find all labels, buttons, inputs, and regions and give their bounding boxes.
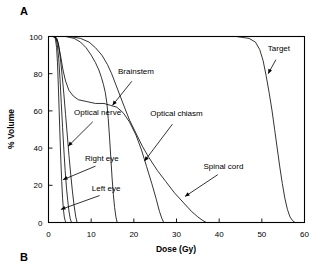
x-tick-label: 10: [87, 230, 96, 239]
x-axis-tick-labels: 0102030405060: [46, 230, 309, 239]
annotation-left-eye: Left eye: [92, 184, 121, 193]
x-tick-label: 30: [172, 230, 181, 239]
y-axis-title: % Volume: [6, 109, 16, 149]
y-axis-ticks: [49, 37, 53, 223]
x-tick-label: 40: [215, 230, 224, 239]
annotation-right-eye: Right eye: [85, 154, 119, 163]
figure-panel-a: A B 020406080100 0102030405060 TargetBra…: [0, 0, 323, 270]
y-tick-label: 100: [29, 33, 43, 42]
y-tick-label: 20: [34, 181, 43, 190]
series-curve-optical-chiasm: [49, 37, 164, 223]
y-axis-tick-labels: 020406080100: [29, 33, 43, 228]
y-tick-label: 40: [34, 144, 43, 153]
annotation-labels: TargetBrainstemOptical chiasmOptical ner…: [74, 44, 291, 193]
x-axis-title: Dose (Gy): [156, 244, 196, 254]
x-tick-label: 60: [300, 230, 309, 239]
leader-line: [63, 166, 96, 180]
leader-line: [185, 175, 218, 197]
leader-line: [61, 196, 100, 210]
annotation-optical-nerve: Optical nerve: [74, 108, 122, 117]
leader-line: [145, 124, 173, 161]
annotation-spinal-cord: Spinal cord: [203, 162, 243, 171]
annotation-brainstem: Brainstem: [118, 67, 154, 76]
annotation-target: Target: [268, 44, 291, 53]
dose-volume-histogram-chart: 020406080100 0102030405060 TargetBrainst…: [0, 0, 323, 270]
series-curve-left-eye: [49, 37, 66, 223]
annotation-optical-chiasm: Optical chiasm: [150, 109, 203, 118]
x-tick-label: 50: [257, 230, 266, 239]
x-tick-label: 20: [129, 230, 138, 239]
x-tick-label: 0: [46, 230, 51, 239]
y-tick-label: 60: [34, 107, 43, 116]
leader-line: [68, 122, 93, 147]
x-axis-ticks: [49, 219, 305, 223]
leader-arrowhead: [185, 192, 190, 196]
y-tick-label: 0: [38, 219, 43, 228]
y-tick-label: 80: [34, 70, 43, 79]
series-curve-spinal-cord: [49, 37, 207, 223]
